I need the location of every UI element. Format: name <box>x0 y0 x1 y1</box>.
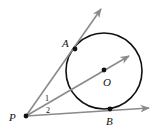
angle-label-1: 1 <box>45 94 49 103</box>
tangent-diagram: P A O B 1 2 <box>0 0 156 136</box>
angle-label-2: 2 <box>46 106 50 115</box>
label-a: A <box>61 37 69 49</box>
point-o <box>102 68 107 73</box>
ray-pa <box>26 9 101 116</box>
label-b: B <box>106 115 113 127</box>
point-b <box>108 107 113 112</box>
label-o: O <box>103 76 111 88</box>
point-a <box>73 47 78 52</box>
point-p <box>24 114 29 119</box>
ray-pb <box>26 108 149 116</box>
label-p: P <box>8 111 16 123</box>
